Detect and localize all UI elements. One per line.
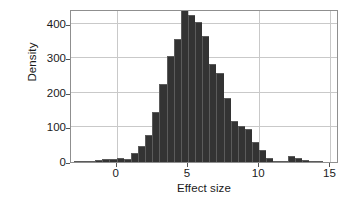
- histogram-bar: [295, 158, 302, 162]
- histogram-bar: [88, 161, 95, 162]
- histogram-bar: [266, 158, 273, 162]
- histogram-bar: [74, 161, 81, 162]
- histogram-bar: [309, 161, 316, 162]
- histogram-bar: [159, 84, 166, 162]
- y-tick-mark: [66, 128, 70, 129]
- histogram-bar: [216, 73, 223, 162]
- y-tick-label: 100: [47, 121, 66, 133]
- histogram-bar: [167, 56, 174, 162]
- histogram-bar: [238, 126, 245, 162]
- histogram-bar: [124, 159, 131, 162]
- y-tick-mark: [66, 59, 70, 60]
- histogram-bar: [131, 153, 138, 162]
- histogram-bar: [152, 112, 159, 162]
- histogram-bar: [181, 10, 188, 162]
- histogram-bar: [81, 161, 88, 162]
- histogram-bar: [231, 121, 238, 162]
- histogram-bar: [259, 150, 266, 162]
- y-tick-mark: [66, 94, 70, 95]
- histogram-bar: [109, 159, 116, 162]
- x-tick-label: 5: [167, 167, 207, 179]
- histogram-figure: Density 0100200300400 051015 Effect size: [0, 0, 357, 204]
- y-tick-label: 400: [47, 18, 66, 30]
- histogram-bar: [316, 161, 323, 162]
- histogram-bar: [288, 156, 295, 162]
- histogram-bar: [245, 129, 252, 163]
- histogram-bar: [117, 158, 124, 162]
- x-tick-label: 10: [238, 167, 278, 179]
- histogram-bar: [145, 135, 152, 162]
- histogram-bar: [174, 39, 181, 162]
- histogram-bar: [138, 146, 145, 162]
- histogram-bar: [273, 161, 280, 162]
- x-tick-label: 15: [309, 167, 349, 179]
- histogram-bar: [202, 36, 209, 162]
- histogram-bars: [71, 11, 337, 162]
- y-tick-label: 200: [47, 87, 66, 99]
- y-axis-label: Density: [26, 2, 38, 122]
- y-tick-label: 300: [47, 52, 66, 64]
- histogram-bar: [252, 142, 259, 162]
- histogram-bar: [209, 64, 216, 162]
- plot-area: [70, 10, 338, 163]
- histogram-bar: [302, 160, 309, 162]
- y-tick-label: 0: [60, 156, 66, 168]
- histogram-bar: [224, 98, 231, 162]
- histogram-bar: [102, 159, 109, 162]
- histogram-bar: [95, 160, 102, 162]
- histogram-bar: [188, 15, 195, 162]
- x-tick-label: 0: [96, 167, 136, 179]
- y-tick-mark: [66, 25, 70, 26]
- y-tick-mark: [66, 163, 70, 164]
- histogram-bar: [195, 22, 202, 162]
- x-axis-label: Effect size: [70, 182, 338, 194]
- histogram-bar: [281, 161, 288, 162]
